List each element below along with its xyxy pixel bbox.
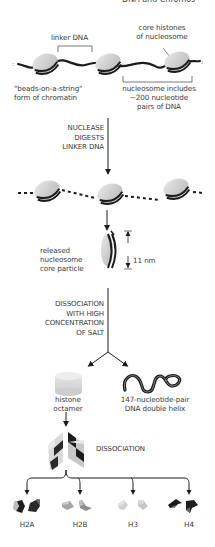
digested-chromatin xyxy=(18,175,203,207)
dimension-11nm xyxy=(124,231,132,269)
dna-helix-label: 147-nucleotide-pair DNA double helix xyxy=(114,395,196,413)
svg-text::: : xyxy=(12,60,14,67)
histone-h2a-label: H2A xyxy=(14,520,40,529)
nucleosome-bracket xyxy=(123,76,192,82)
chromatin-diagram: : : xyxy=(0,0,215,547)
histone-h2b-shape xyxy=(62,500,92,511)
dissociation-step-label: DISSOCIATION xyxy=(96,445,145,455)
core-histones-label: core histones of nucleosome xyxy=(130,23,194,41)
salt-step-label: DISSOCIATION WITH HIGH CONCENTRATION OF … xyxy=(20,300,104,338)
beads-line-2: form of chromatin xyxy=(14,93,82,102)
released-line-1: released xyxy=(40,246,84,255)
arrow-to-dna xyxy=(108,352,126,365)
histone-h3-label: H3 xyxy=(120,520,146,529)
histone-octamer-label: histone octamer xyxy=(44,395,92,413)
core-particle xyxy=(101,231,116,268)
arrow-to-octamer xyxy=(90,352,108,365)
histone-h4-label: H4 xyxy=(176,520,202,529)
nuclease-line-1: NUCLEASE xyxy=(40,124,104,134)
linker-bracket xyxy=(58,46,92,52)
beads-on-a-string-label: "beads-on-a-string" form of chromatin xyxy=(14,84,82,102)
salt-line-4: OF SALT xyxy=(20,329,104,339)
nucleosome-bead-1 xyxy=(30,50,61,77)
histone-h4-shape xyxy=(168,499,198,513)
split-octamer xyxy=(48,432,84,470)
core-histones-line-1: core histones xyxy=(130,23,194,32)
cut-bead-1 xyxy=(32,177,63,204)
salt-line-1: DISSOCIATION xyxy=(20,300,104,310)
cut-bead-2 xyxy=(95,180,126,207)
released-core-label: released nucleosome core particle xyxy=(40,246,84,273)
dna-helix-line-1: 147-nucleotide-pair xyxy=(114,395,196,404)
size-11nm-label: 11 nm xyxy=(133,256,156,265)
nucleosome-line-3: pairs of DNA xyxy=(116,102,202,111)
histone-octamer xyxy=(55,372,82,396)
salt-line-3: CONCENTRATION xyxy=(20,319,104,329)
octamer-line-2: octamer xyxy=(44,404,92,413)
beads-on-a-string: : : xyxy=(12,46,203,82)
histone-distribution-arrows xyxy=(27,470,189,492)
nucleosome-includes-label: nucleosome includes ~200 nucleotide pair… xyxy=(116,84,202,111)
core-histones-line-2: of nucleosome xyxy=(130,32,194,41)
histone-h2a-shape xyxy=(13,499,40,513)
nuclease-line-2: DIGESTS xyxy=(40,134,104,144)
histone-h3-shape xyxy=(118,500,148,510)
released-line-3: core particle xyxy=(40,264,84,273)
beads-line-1: "beads-on-a-string" xyxy=(14,84,82,93)
svg-text::: : xyxy=(201,58,203,65)
nuclease-line-3: LINKER DNA xyxy=(40,143,104,153)
nucleosome-line-1: nucleosome includes xyxy=(116,84,202,93)
linker-dna-label: linker DNA xyxy=(51,33,88,42)
released-line-2: nucleosome xyxy=(40,255,84,264)
nucleosome-line-2: ~200 nucleotide xyxy=(116,93,202,102)
cut-bead-3 xyxy=(161,175,192,202)
dna-helix-line-2: DNA double helix xyxy=(114,404,196,413)
salt-line-2: WITH HIGH xyxy=(20,310,104,320)
nuclease-step-label: NUCLEASE DIGESTS LINKER DNA xyxy=(40,124,104,153)
octamer-line-1: histone xyxy=(44,395,92,404)
histone-h2b-label: H2B xyxy=(67,520,93,529)
nucleosome-bead-2 xyxy=(93,50,124,77)
